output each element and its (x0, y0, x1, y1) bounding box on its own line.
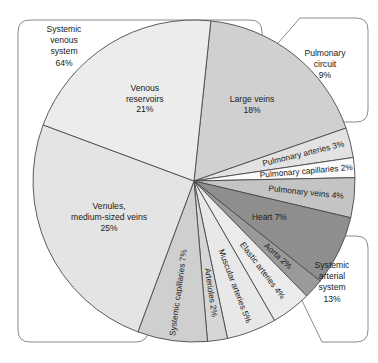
pie-chart-svg: Large veins18%Pulmonary arteries 3%Pulmo… (0, 0, 378, 363)
pie-chart-figure: Large veins18%Pulmonary arteries 3%Pulmo… (0, 0, 378, 363)
pie-slices (33, 20, 355, 342)
slice-label-heart: Heart 7% (252, 212, 287, 222)
